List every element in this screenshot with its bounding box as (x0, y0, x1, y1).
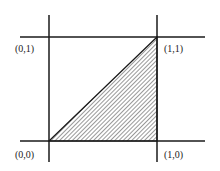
shaded-triangle (49, 37, 157, 141)
label-top-right: (1,1) (164, 43, 183, 54)
diagram-canvas (0, 0, 220, 171)
label-top-left: (0,1) (15, 43, 34, 54)
label-bottom-left: (0,0) (15, 149, 34, 160)
label-bottom-right: (1,0) (164, 149, 183, 160)
